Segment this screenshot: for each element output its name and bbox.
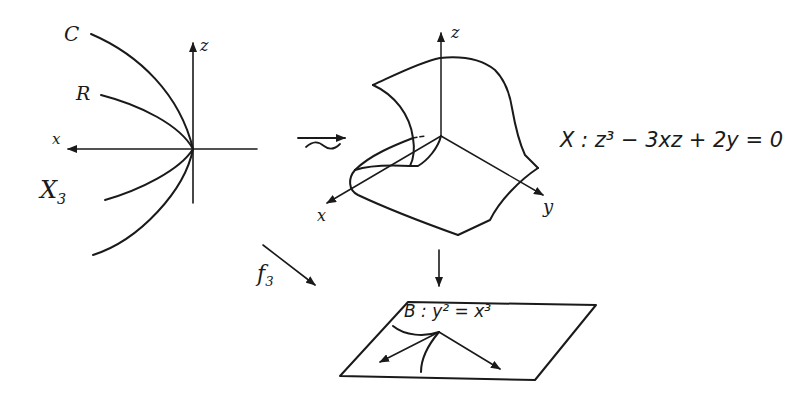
- label-curve-r: R: [76, 84, 90, 103]
- curve-r-upper: [101, 95, 193, 149]
- diagram-canvas: C R x z X3 z x y X : z³ − 3xz + 2y = 0 f…: [0, 0, 805, 403]
- left-axes: [68, 43, 257, 203]
- y-axis-arrow-mid: [441, 136, 543, 195]
- label-z-axis-left: z: [200, 38, 208, 54]
- label-z-axis-mid: z: [451, 25, 459, 41]
- label-curve-c: C: [64, 24, 79, 44]
- curve-r-lower: [105, 149, 193, 200]
- label-y-axis-mid: y: [543, 198, 553, 216]
- surface-equation: X : z³ − 3xz + 2y = 0: [560, 130, 783, 151]
- surface-outline: [350, 57, 538, 235]
- base-equation: B : y² = x³: [404, 303, 491, 320]
- label-x-axis-left: x: [52, 132, 60, 147]
- label-x-axis-mid: x: [317, 208, 326, 224]
- label-map-f3: f3: [257, 263, 274, 289]
- cusp-curve-lower: [421, 332, 439, 372]
- x-axis-arrow-mid: [327, 136, 441, 203]
- diagram-strokes: [0, 0, 805, 403]
- isomorphism-arrow: [298, 138, 345, 149]
- label-space-x3: X3: [40, 178, 66, 206]
- left-curves: [91, 34, 193, 255]
- cusp-curve-left: [393, 326, 439, 335]
